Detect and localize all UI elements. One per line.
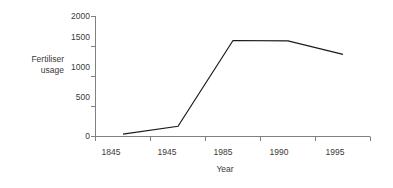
x-axis bbox=[95, 137, 371, 142]
plot-area bbox=[0, 0, 393, 188]
y-axis bbox=[91, 16, 96, 137]
line-chart: Fertiliserusage 2000 1500 1000 500 0 184… bbox=[0, 0, 393, 188]
data-series-line bbox=[123, 41, 343, 135]
